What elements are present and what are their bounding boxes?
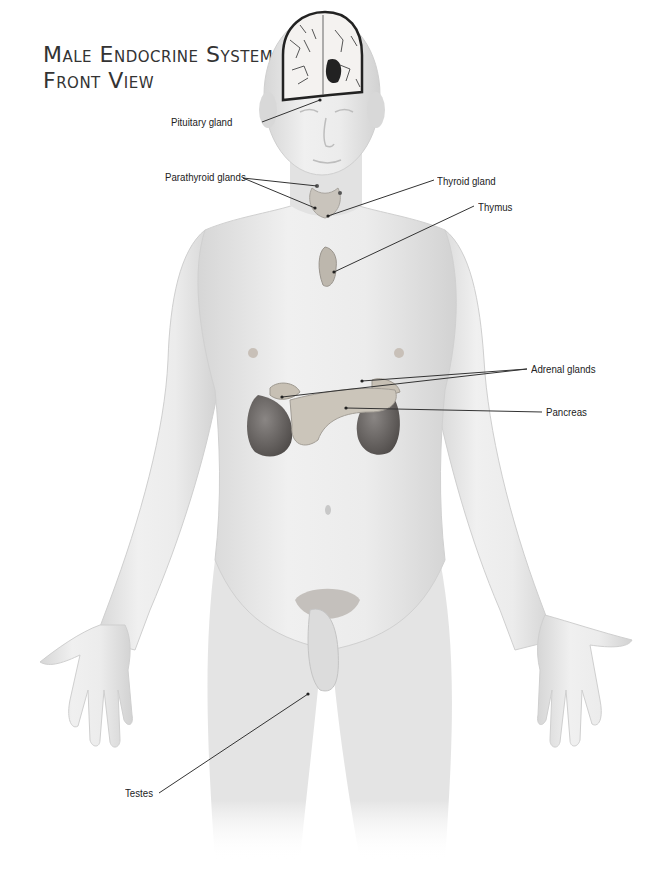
- right-ear: [367, 92, 385, 128]
- label-thyroid-gland: Thyroid gland: [437, 175, 496, 187]
- label-parathyroid-glands: Parathyroid glands: [165, 171, 246, 183]
- thymus: [319, 247, 336, 286]
- label-pituitary-gland: Pituitary gland: [171, 116, 232, 128]
- label-pancreas: Pancreas: [546, 406, 587, 418]
- left-arm: [40, 230, 218, 747]
- right-nipple: [394, 348, 404, 358]
- navel: [325, 505, 331, 515]
- parathyroid-right: [338, 191, 342, 195]
- label-testes: Testes: [125, 787, 153, 799]
- label-thymus: Thymus: [478, 201, 512, 213]
- label-adrenal-glands: Adrenal glands: [531, 363, 596, 375]
- body-illustration: [0, 0, 654, 885]
- left-nipple: [248, 348, 258, 358]
- right-arm: [434, 230, 632, 747]
- brain-cutaway: [283, 12, 362, 100]
- left-ear: [259, 92, 277, 128]
